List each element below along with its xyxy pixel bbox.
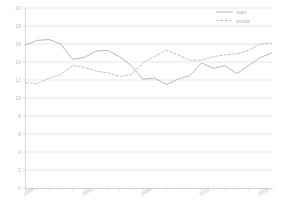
line-chart: 02468101214161820 19851990199520002005 m… (0, 0, 283, 214)
legend-label-vrouw: vrouw (236, 18, 250, 24)
y-axis-tick-label: 14 (15, 59, 21, 65)
chart-legend: manvrouw (216, 9, 250, 24)
y-axis-tick-label: 0 (18, 185, 21, 191)
y-axis-tick-label: 6 (18, 131, 21, 137)
y-axis-tick-label: 4 (18, 149, 21, 155)
legend-label-man: man (236, 9, 246, 15)
y-axis-tick-label: 10 (15, 95, 21, 101)
y-axis-tick-label: 16 (15, 41, 21, 47)
y-axis-tick-label: 2 (18, 167, 21, 173)
y-axis-tick-label: 12 (15, 77, 21, 83)
x-axis-tick-label: 1990 (81, 186, 94, 197)
x-axis-tick-label: 2000 (198, 186, 211, 197)
y-axis-tick-label: 18 (15, 23, 21, 29)
y-axis-tick-label: 20 (15, 5, 21, 11)
x-axis-tick-label: 2005 (257, 186, 270, 197)
y-axis-tick-labels: 02468101214161820 (15, 5, 21, 191)
x-axis-tick-labels: 19851990199520002005 (22, 186, 270, 197)
x-axis-tick-label: 1995 (139, 186, 152, 197)
gridlines-group (26, 8, 273, 170)
y-axis-tick-label: 8 (18, 113, 21, 119)
series-line-vrouw (26, 43, 273, 84)
x-axis-tick-label: 1985 (22, 186, 35, 197)
chart-canvas: 02468101214161820 19851990199520002005 m… (0, 0, 283, 214)
